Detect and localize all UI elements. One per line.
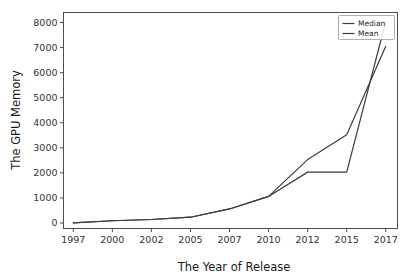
x-axis-title: The Year of Release [177,260,291,274]
y-tick-label: 7000 [33,42,57,53]
x-tick-label: 2012 [296,234,320,245]
data-series-group [73,21,386,223]
series-line-median [73,21,386,223]
x-tick-label: 2002 [139,234,163,245]
y-tick-label: 1000 [33,192,57,203]
legend-label-mean: Mean [358,29,379,38]
y-tick-label: 3000 [33,142,57,153]
x-tick-label: 2010 [256,234,280,245]
plot-frame [64,13,398,229]
y-tick-label: 6000 [33,67,57,78]
legend-label-median: Median [358,19,386,28]
x-axis-ticks: 199720002002200520072010201220152017 [61,229,398,245]
series-line-mean [73,46,386,222]
y-tick-label: 0 [51,217,57,228]
y-axis-ticks: 010002000300040005000600070008000 [33,17,63,228]
x-tick-label: 2000 [100,234,124,245]
y-tick-label: 4000 [33,117,57,128]
axes-spines [64,13,398,229]
x-tick-label: 2005 [178,234,202,245]
x-tick-label: 2017 [374,234,398,245]
y-axis-title: The GPU Memory [9,70,23,171]
line-chart: 010002000300040005000600070008000 199720… [0,0,409,278]
x-tick-label: 2007 [217,234,241,245]
chart-legend: MedianMean [339,16,395,40]
x-tick-label: 1997 [61,234,85,245]
y-tick-label: 2000 [33,167,57,178]
chart-figure: 010002000300040005000600070008000 199720… [0,0,409,278]
x-tick-label: 2015 [335,234,359,245]
y-tick-label: 8000 [33,17,57,28]
y-tick-label: 5000 [33,92,57,103]
